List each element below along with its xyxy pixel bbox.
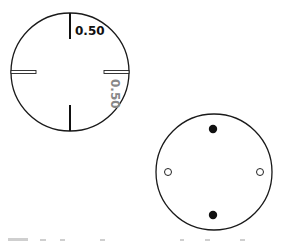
bottom-dial (156, 114, 272, 230)
diagram-canvas: 0.50 0.50 (0, 0, 285, 241)
filled-dot-top (209, 125, 217, 133)
left-tick (11, 71, 36, 74)
top-label: 0.50 (75, 24, 105, 38)
hollow-dot-left (165, 169, 172, 176)
right-label: 0.50 (108, 79, 122, 109)
right-tick (104, 71, 129, 74)
hollow-dot-right (257, 169, 264, 176)
filled-dot-bottom (209, 211, 217, 219)
top-gauge: 0.50 0.50 (11, 13, 129, 131)
